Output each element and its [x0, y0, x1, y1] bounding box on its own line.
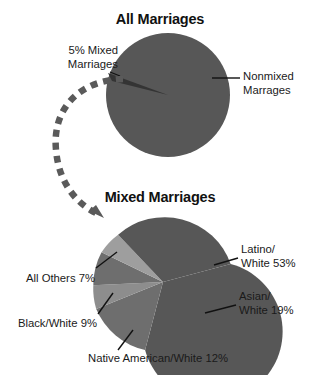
callout-all-others: All Others 7%	[2, 272, 95, 286]
callout-native-american-white: Native American/White 12%	[88, 352, 268, 366]
callout-latino-white: Latino/ White 53%	[241, 243, 319, 270]
infographic-figure: All Marriages 5% Mixed Marriages Nonmixe…	[0, 0, 320, 375]
callout-asian-white: Asian/ White 19%	[239, 290, 319, 317]
callout-black-white: Black/White 9%	[2, 317, 97, 331]
